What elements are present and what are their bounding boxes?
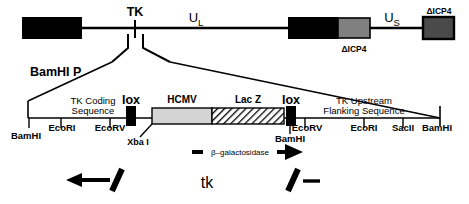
beta-galactosidase-transcript: β–galactosidase xyxy=(192,144,303,160)
allele-right-slash-icon xyxy=(288,169,298,191)
lox-left-box xyxy=(126,106,136,126)
label-bamhi-mid: BamHI xyxy=(275,133,305,144)
genome-repeat-internal-box xyxy=(288,17,338,39)
lox-left-label: lox xyxy=(122,93,140,107)
bamhi-p-fragment-label: BamHI P xyxy=(30,65,81,79)
transcript-left-stub xyxy=(192,150,203,154)
lacz-gene-box xyxy=(212,108,284,124)
label-ecorv-right: EcoRV xyxy=(292,122,323,133)
ul-region-label: UL xyxy=(189,10,204,28)
beta-galactosidase-label: β–galactosidase xyxy=(211,148,270,157)
genome-map: TK UL US ΔICP4 ΔICP4 xyxy=(22,5,454,54)
ul-region-label-main: U xyxy=(189,10,198,25)
lox-right-label: lox xyxy=(282,93,300,107)
figure-root: TK UL US ΔICP4 ΔICP4 BamHI P xyxy=(0,0,469,204)
transcript-arrowhead-icon xyxy=(285,144,303,160)
us-region-label: US xyxy=(384,10,400,28)
allele-left-arrowhead-icon xyxy=(66,173,82,187)
construct-map: TK Coding Sequence lox HCMV Lac Z lox TK… xyxy=(11,93,452,147)
tk-locus-label: TK xyxy=(127,5,144,19)
label-ecori-left: EcoRI xyxy=(49,122,76,133)
delta-icp4-terminal-box xyxy=(423,17,454,39)
diagram-canvas: TK UL US ΔICP4 ΔICP4 BamHI P xyxy=(0,0,469,204)
tk-locus-bottom-label: tk xyxy=(201,174,214,191)
delta-icp4-terminal-label: ΔICP4 xyxy=(426,6,451,16)
delta-icp4-internal-label: ΔICP4 xyxy=(341,44,366,54)
label-ecori-right: EcoRI xyxy=(351,122,378,133)
tk-coding-sequence-label-line2: Sequence xyxy=(72,105,115,116)
label-sacii: SacII xyxy=(392,122,414,133)
tk-minus-right-allele xyxy=(288,169,320,191)
us-region-label-main: U xyxy=(384,10,393,25)
label-bamhi-left: BamHI xyxy=(11,130,41,141)
lacz-gene-label: Lac Z xyxy=(235,94,261,105)
tk-upstream-flanking-label-line2: Flanking Sequence xyxy=(323,105,404,116)
us-region-label-sub: S xyxy=(394,17,400,28)
hcmv-promoter-label: HCMV xyxy=(167,94,197,105)
delta-icp4-internal-box xyxy=(338,18,370,38)
xbai-leader-line xyxy=(140,124,152,137)
leader-line-left-inner xyxy=(112,34,128,62)
hcmv-promoter-box xyxy=(152,108,212,124)
tk-minus-left-allele xyxy=(66,169,122,191)
tk-allele-row: tk xyxy=(66,169,320,191)
label-ecorv-left: EcoRV xyxy=(95,122,126,133)
leader-line-right-inner xyxy=(143,34,170,62)
ul-region-label-sub: L xyxy=(198,17,203,28)
genome-repeat-left-box xyxy=(22,17,82,39)
label-xbai: Xba I xyxy=(127,137,149,147)
allele-left-slash-icon xyxy=(112,169,122,191)
label-bamhi-right: BamHI xyxy=(422,122,452,133)
